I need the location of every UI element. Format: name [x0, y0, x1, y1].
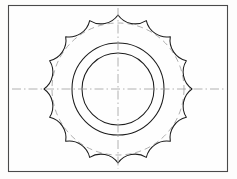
drawing-canvas — [0, 0, 237, 179]
sprocket-drawing — [0, 0, 237, 179]
